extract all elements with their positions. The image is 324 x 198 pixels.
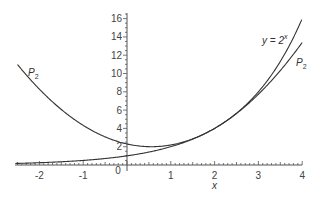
y-tick-label: 16 <box>111 13 123 24</box>
exp-curve <box>15 20 301 164</box>
y-tick-label: 14 <box>111 31 123 42</box>
axes <box>15 13 302 171</box>
exp-curve-label: y = 2x <box>261 33 288 46</box>
x-tick-label: 1 <box>168 170 174 181</box>
x-tick-label: -2 <box>35 170 44 181</box>
p2-curve <box>18 42 303 146</box>
p2-label-right: P2 <box>296 57 307 70</box>
curves <box>15 20 302 164</box>
x-tick-label: 3 <box>256 170 262 181</box>
x-axis-label: x <box>211 180 218 191</box>
x-tick-label: -1 <box>79 170 88 181</box>
chart: -2-101234246810121416 x y = 2x P2 P2 <box>0 0 324 198</box>
y-tick-label: 10 <box>111 68 123 79</box>
y-tick-label: 4 <box>116 123 122 134</box>
y-tick-label: 12 <box>111 50 123 61</box>
y-tick-label: 8 <box>116 86 122 97</box>
x-tick-label: 0 <box>115 165 121 176</box>
y-tick-label: 6 <box>116 105 122 116</box>
x-tick-label: 4 <box>299 170 305 181</box>
axis-ticks <box>18 14 303 165</box>
